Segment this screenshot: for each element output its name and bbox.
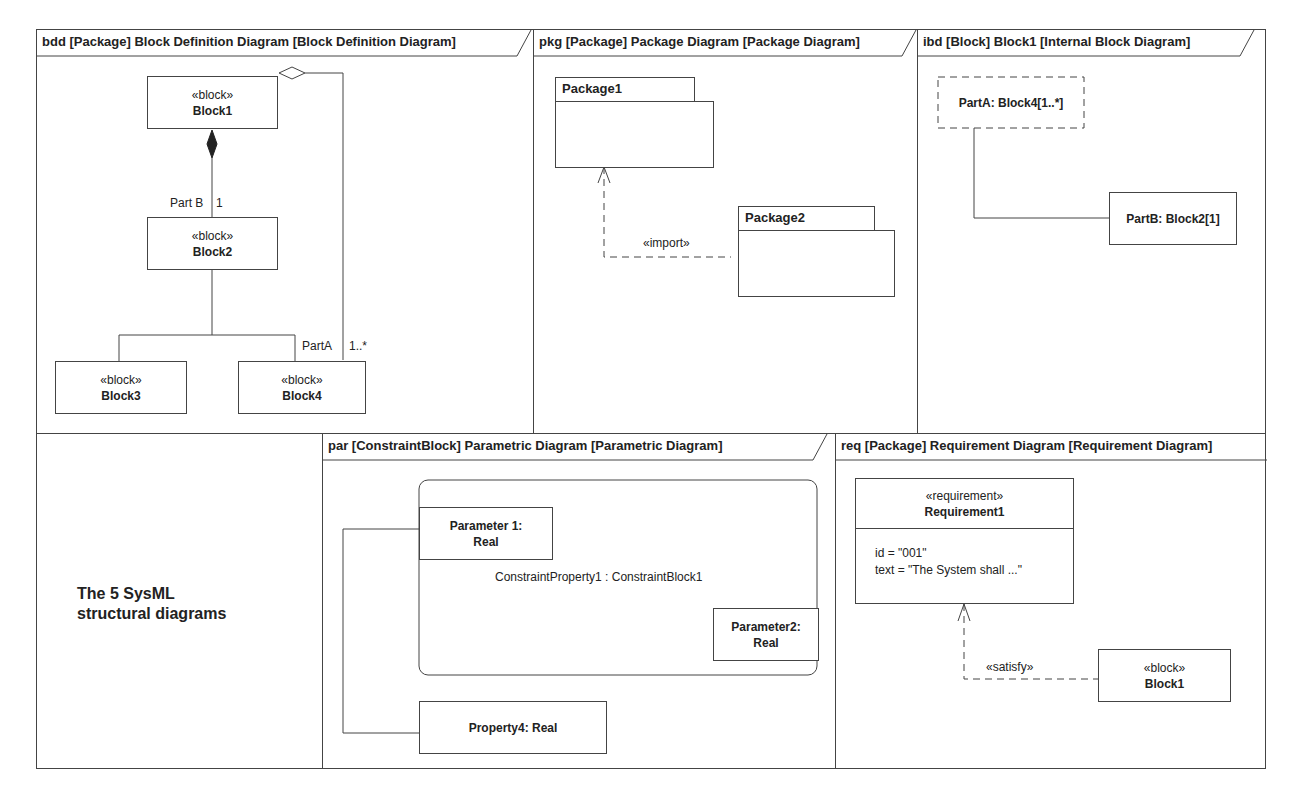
caption-text: The 5 SysML structural diagrams	[77, 584, 226, 624]
bdd-block2[interactable]: «block» Block2	[147, 217, 278, 270]
package1-tab[interactable]: Package1	[555, 77, 695, 102]
composition-diamond-icon	[207, 130, 217, 158]
param-line2: Real	[753, 635, 778, 651]
bdd-block3[interactable]: «block» Block3	[55, 361, 187, 414]
part-label: PartA: Block4[1..*]	[959, 95, 1064, 111]
req-frame: req [Package] Requirement Diagram [Requi…	[835, 433, 1266, 769]
requirement-attributes: id = "001" text = "The System shall ..."	[856, 529, 1073, 579]
param-line2: Real	[473, 534, 498, 550]
requirement1-box[interactable]: «requirement» Requirement1 id = "001" te…	[855, 478, 1074, 604]
bdd-block1[interactable]: «block» Block1	[147, 76, 278, 129]
package2-tab[interactable]: Package2	[738, 206, 875, 231]
requirement-id: id = "001"	[875, 545, 1073, 562]
req-title: req [Package] Requirement Diagram [Requi…	[836, 434, 1212, 460]
bdd-frame: bdd [Package] Block Definition Diagram […	[36, 29, 534, 434]
stereotype: «block»	[281, 372, 322, 388]
block-name: Block4	[282, 388, 321, 404]
package2-body[interactable]	[738, 230, 895, 297]
stereotype: «block»	[192, 228, 233, 244]
property-label: Property4: Real	[469, 720, 558, 736]
par-property4[interactable]: Property4: Real	[419, 701, 607, 754]
open-arrowhead-icon	[958, 604, 970, 621]
caption-line2: structural diagrams	[77, 604, 226, 624]
open-arrowhead-icon	[598, 167, 610, 183]
requirement-header: «requirement» Requirement1	[856, 479, 1073, 529]
par-parameter1[interactable]: Parameter 1: Real	[419, 507, 553, 560]
req-block1[interactable]: «block» Block1	[1098, 649, 1231, 702]
ibd-partB[interactable]: PartB: Block2[1]	[1109, 192, 1237, 245]
partA-role-label: PartA	[302, 339, 332, 353]
par-parameter2[interactable]: Parameter2: Real	[713, 608, 819, 661]
caption-line1: The 5 SysML	[77, 584, 226, 604]
requirement-name: Requirement1	[856, 504, 1073, 520]
block-name: Block1	[1145, 676, 1184, 692]
ibd-frame: ibd [Block] Block1 [Internal Block Diagr…	[917, 29, 1266, 434]
partA-multiplicity: 1..*	[349, 339, 367, 353]
stereotype: «block»	[192, 87, 233, 103]
satisfy-label: «satisfy»	[986, 660, 1033, 674]
package1-body[interactable]	[555, 101, 714, 168]
param-line1: Parameter2:	[731, 619, 800, 635]
ibd-title: ibd [Block] Block1 [Internal Block Diagr…	[918, 30, 1190, 56]
part-label: PartB: Block2[1]	[1126, 211, 1219, 227]
constraint-property-label: ConstraintProperty1 : ConstraintBlock1	[495, 570, 702, 584]
block-name: Block1	[193, 103, 232, 119]
param-line1: Parameter 1:	[450, 518, 523, 534]
requirement-text: text = "The System shall ..."	[875, 562, 1073, 579]
ibd-partA[interactable]: PartA: Block4[1..*]	[939, 78, 1083, 127]
block-name: Block3	[101, 388, 140, 404]
caption-frame: The 5 SysML structural diagrams	[36, 433, 323, 769]
stereotype: «requirement»	[856, 488, 1073, 504]
stereotype: «block»	[1144, 660, 1185, 676]
stereotype: «block»	[100, 372, 141, 388]
par-title: par [ConstraintBlock] Parametric Diagram…	[323, 434, 722, 460]
aggregation-diamond-icon	[279, 67, 305, 79]
par-frame: par [ConstraintBlock] Parametric Diagram…	[322, 433, 836, 769]
block-name: Block2	[193, 244, 232, 260]
import-label: «import»	[643, 236, 690, 250]
pkg-frame: pkg [Package] Package Diagram [Package D…	[533, 29, 918, 434]
bdd-title: bdd [Package] Block Definition Diagram […	[37, 30, 456, 56]
partB-role-label: Part B	[170, 196, 203, 210]
bdd-block4[interactable]: «block» Block4	[238, 361, 366, 414]
partB-multiplicity: 1	[216, 196, 223, 210]
pkg-title: pkg [Package] Package Diagram [Package D…	[534, 30, 860, 56]
